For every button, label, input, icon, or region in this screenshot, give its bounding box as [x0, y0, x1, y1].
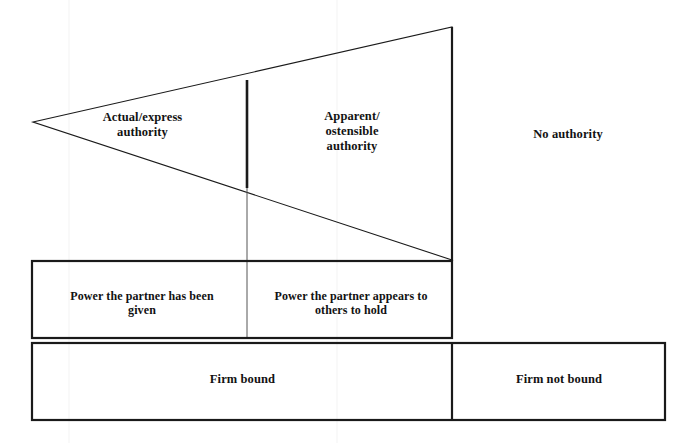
- label-apparent-ostensible-authority: Apparent/ ostensible authority: [272, 109, 432, 153]
- label-power-partner-given: Power the partner has been given: [44, 289, 240, 317]
- authority-diagram: Actual/express authority Apparent/ osten…: [0, 0, 691, 443]
- label-power-partner-appears: Power the partner appears to others to h…: [255, 289, 447, 317]
- label-actual-express-authority: Actual/express authority: [55, 110, 230, 140]
- label-firm-not-bound: Firm not bound: [479, 372, 639, 387]
- label-firm-bound: Firm bound: [130, 372, 355, 387]
- label-no-authority: No authority: [478, 127, 658, 142]
